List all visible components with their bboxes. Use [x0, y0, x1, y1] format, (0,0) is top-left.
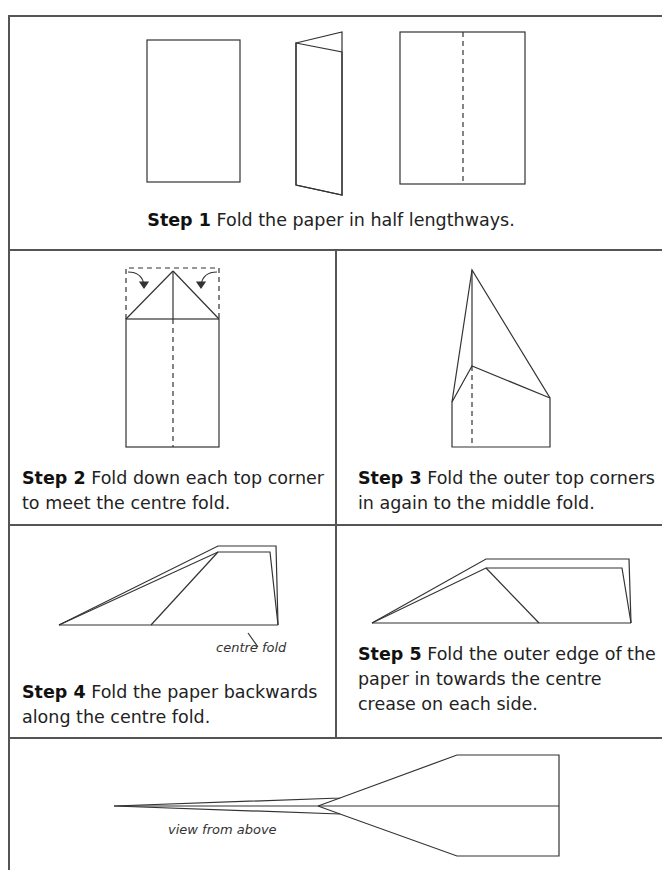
- plane-top-view-diagram: [0, 738, 662, 870]
- view-from-above-label: view from above: [168, 822, 277, 837]
- step3-caption: Step 3 Fold the outer top corners in aga…: [358, 466, 655, 516]
- step5-caption: Step 5 Fold the outer edge of the paper …: [358, 642, 656, 717]
- paper-flat: [147, 40, 240, 182]
- centre-fold-label: centre fold: [216, 640, 286, 655]
- step4-caption: Step 4 Fold the paper backwards along th…: [22, 680, 317, 730]
- step2-caption: Step 2 Fold down each top corner to meet…: [22, 466, 324, 516]
- step1-caption: Step 1 Fold the paper in half lengthways…: [0, 208, 662, 233]
- paper-folding: [296, 32, 342, 195]
